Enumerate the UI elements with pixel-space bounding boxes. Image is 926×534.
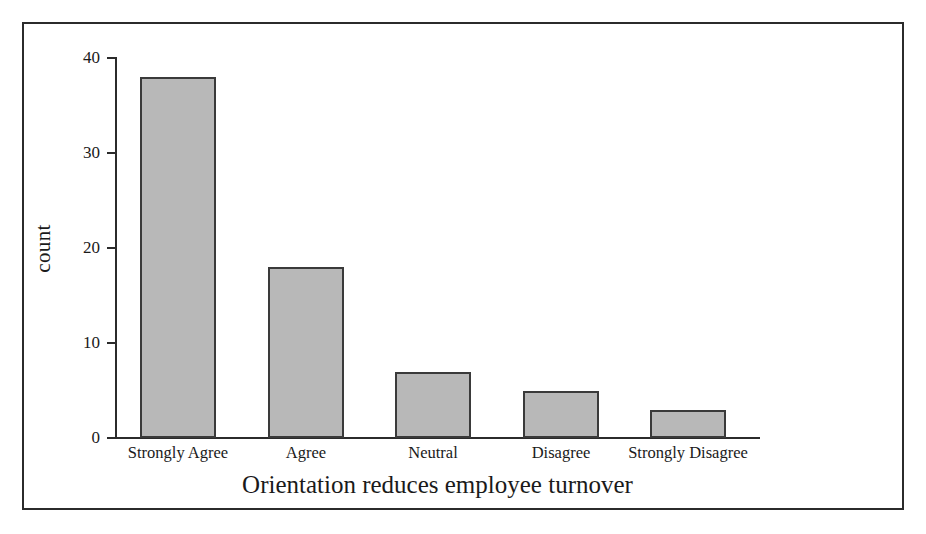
bar-strongly-agree <box>140 77 216 438</box>
x-axis-category-labels: Strongly AgreeAgreeNeutralDisagreeStrong… <box>0 443 926 473</box>
bar-strongly-disagree <box>650 410 726 439</box>
x-axis-title: Orientation reduces employee turnover <box>115 470 760 500</box>
bar-disagree <box>523 391 599 439</box>
bar-agree <box>268 267 344 438</box>
bar-chart-figure: 010203040 count Strongly AgreeAgreeNeutr… <box>0 0 926 534</box>
category-label: Strongly Disagree <box>593 443 783 463</box>
bar-neutral <box>395 372 471 439</box>
